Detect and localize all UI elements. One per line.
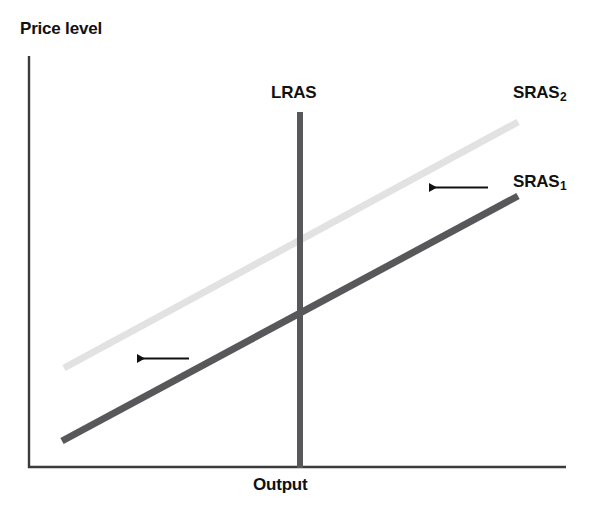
sras1-line (62, 196, 518, 441)
sras1-curve-label: SRAS1 (513, 173, 566, 190)
sras2-label-subscript: 2 (560, 90, 566, 104)
sras1-label-base: SRAS (513, 172, 559, 191)
sras2-line (64, 122, 518, 368)
aggregate-supply-chart: Price level Output LRAS SRAS2 SRAS1 (0, 0, 595, 514)
sras1-label-subscript: 1 (560, 179, 566, 193)
chart-canvas (0, 0, 595, 514)
lras-curve-label: LRAS (271, 84, 316, 101)
sras2-label-base: SRAS (513, 83, 559, 102)
sras2-curve-label: SRAS2 (513, 84, 566, 101)
y-axis-label: Price level (20, 20, 102, 37)
x-axis-label: Output (253, 476, 308, 493)
